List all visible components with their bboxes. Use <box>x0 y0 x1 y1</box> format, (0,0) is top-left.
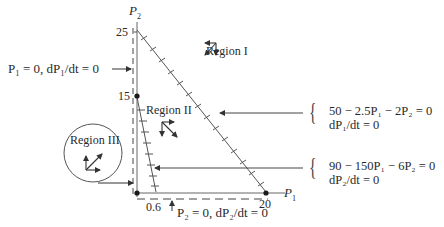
region2-vector-arrows <box>162 122 177 137</box>
eq1-line1: 50 − 2.5P₁ − 2P₂ = 0 <box>329 105 432 118</box>
p1-zero-annotation: P₁ = 0, dP₁/dt = 0 <box>8 62 99 75</box>
equilibrium-point-origin <box>134 190 139 195</box>
x-tick-0-6: 0.6 <box>146 201 161 213</box>
equilibrium-point-p2-15 <box>134 93 139 98</box>
p2-nullcline-hatches <box>137 110 159 186</box>
eq2-brace: { <box>309 154 316 180</box>
y-tick-15: 15 <box>118 90 130 102</box>
region-2-label: Region II <box>146 104 192 116</box>
region-1-label: Region I <box>206 45 248 57</box>
eq2-line1: 90 − 150P₁ − 6P₂ = 0 <box>329 160 435 173</box>
phase-plane-diagram: P2 P1 25 15 0.6 20 Region I Region II Re… <box>0 0 444 227</box>
eq1-brace: { <box>309 99 316 125</box>
region-3-label: Region III <box>70 134 120 146</box>
x-axis-label: P1 <box>284 186 296 203</box>
equilibrium-point-p1-20 <box>263 190 268 195</box>
p2-zero-annotation: P₂ = 0, dP₂/dt = 0 <box>177 206 268 219</box>
eq1-line2: dP₁/dt = 0 <box>329 119 379 132</box>
eq2-line2: dP₂/dt = 0 <box>329 174 379 187</box>
y-tick-25: 25 <box>116 26 128 38</box>
y-axis-label: P2 <box>129 4 141 21</box>
region3-vector-arrows <box>86 154 102 170</box>
